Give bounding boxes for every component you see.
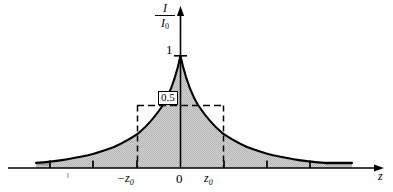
- y-axis-label-denominator-subscript: 0: [165, 22, 169, 31]
- plot-canvas: [0, 0, 393, 192]
- y-axis-label-numerator: I: [152, 3, 178, 15]
- x-tick-label-negative-z0-subscript: 0: [130, 178, 134, 187]
- x-tick-label-negative-z0: −z0: [117, 172, 134, 187]
- x-tick-label-positive-z0: z0: [204, 172, 213, 187]
- x-tick-label-positive-z0-subscript: 0: [209, 178, 213, 187]
- curve-fill-area: [36, 56, 352, 168]
- scan-speck: [67, 173, 69, 178]
- x-axis-label: z: [378, 170, 383, 182]
- lorentzian-figure: I I0 1 0.5 −z0 0 z0 z: [0, 0, 393, 192]
- half-max-value-label: 0.5: [158, 91, 178, 105]
- y-axis-label: I I0: [152, 3, 178, 33]
- y-axis-label-denominator: I0: [152, 16, 178, 33]
- x-tick-label-origin: 0: [176, 172, 183, 185]
- peak-value-label: 1: [166, 43, 173, 56]
